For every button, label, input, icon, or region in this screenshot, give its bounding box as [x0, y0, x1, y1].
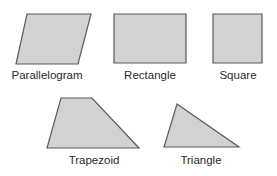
triangle-shape [164, 104, 239, 147]
rectangle-shape [114, 14, 186, 63]
parallelogram-shape [16, 14, 91, 64]
square-label: Square [219, 70, 256, 82]
rectangle-label: Rectangle [124, 70, 176, 82]
triangle-label: Triangle [180, 155, 221, 167]
shapes-diagram [0, 0, 277, 176]
trapezoid-label: Trapezoid [69, 155, 120, 167]
trapezoid-shape [47, 98, 139, 148]
parallelogram-label: Parallelogram [12, 70, 83, 82]
square-shape [213, 14, 262, 63]
